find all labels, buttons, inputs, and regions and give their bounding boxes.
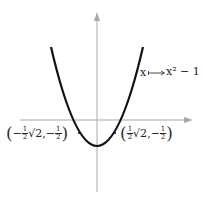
x-axis-arrow-icon <box>184 117 193 123</box>
sign: − <box>46 127 55 140</box>
sqrt-two: √2 <box>133 127 147 140</box>
plot-canvas <box>0 0 203 205</box>
paren-open: ( <box>120 123 127 143</box>
right-point-label: (12√2,−12) <box>120 125 173 142</box>
sqrt-two: √2 <box>28 127 42 140</box>
left-point-marker <box>78 132 80 134</box>
paren-close: ) <box>62 123 69 143</box>
sign: − <box>13 127 22 140</box>
y-axis-arrow-icon <box>94 12 100 21</box>
parabola-diagram: x x² − 1 (−12√2,−12) (12√2,−12) <box>0 0 203 205</box>
sign: − <box>151 127 160 140</box>
left-point-label: (−12√2,−12) <box>6 125 68 142</box>
paren-open: ( <box>6 123 13 143</box>
paren-close: ) <box>166 123 173 143</box>
right-point-marker <box>114 132 116 134</box>
function-expression: x² − 1 <box>166 66 200 77</box>
function-var: x <box>140 67 146 78</box>
